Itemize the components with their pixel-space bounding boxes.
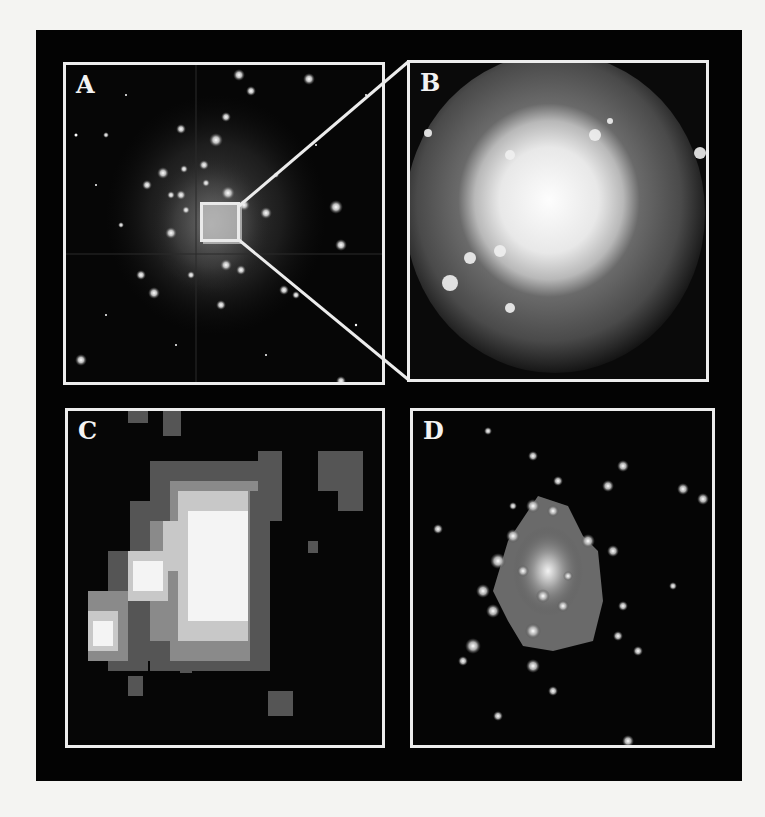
cluster-core-image-b xyxy=(410,63,706,379)
pixelated-core-image-c xyxy=(68,411,382,745)
zoom-box xyxy=(200,202,240,242)
resolved-stars-image-d xyxy=(413,411,712,745)
panel-label-a: A xyxy=(76,73,95,97)
panel-b: B xyxy=(407,60,709,382)
panel-label-b: B xyxy=(420,71,440,95)
panel-d: D xyxy=(410,408,715,748)
panel-label-c: C xyxy=(78,419,97,443)
panel-label-d: D xyxy=(423,419,444,443)
panel-c: C xyxy=(65,408,385,748)
